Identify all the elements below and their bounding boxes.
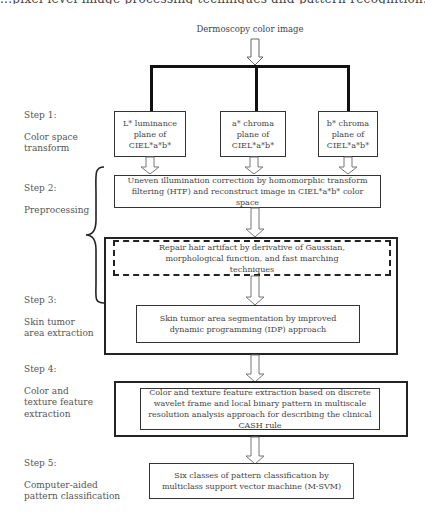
arrow-down-icon bbox=[246, 208, 264, 238]
step-5-label: Step 5: Computer-aided pattern classific… bbox=[24, 458, 124, 503]
step-name: Computer-aided pattern classification bbox=[24, 480, 124, 503]
step-number: Step 1: bbox=[24, 110, 84, 122]
arrow-down-icon bbox=[246, 437, 264, 465]
arrow-down-icon bbox=[247, 39, 263, 67]
branch-middle bbox=[255, 65, 258, 111]
classification-text: Six classes of pattern classification by… bbox=[157, 470, 347, 492]
step-number: Step 5: bbox=[24, 458, 124, 470]
classification-box: Six classes of pattern classification by… bbox=[149, 463, 354, 499]
arrow-down-icon bbox=[245, 157, 263, 175]
segmentation-text: Skin tumor area segmentation by improved… bbox=[143, 313, 353, 335]
step-1-label: Step 1: Color space transform bbox=[24, 110, 84, 155]
step-name: Color and texture feature extraction bbox=[24, 386, 99, 421]
plane-line: L* luminance bbox=[123, 118, 177, 129]
hair-repair-text: Repair hair artifact by derivative of Ga… bbox=[152, 242, 352, 275]
branch-right bbox=[347, 65, 350, 111]
arrow-down-icon bbox=[246, 276, 264, 306]
hair-repair-box: Repair hair artifact by derivative of Ga… bbox=[113, 240, 391, 276]
plane-line: b* chroma bbox=[327, 118, 369, 129]
branch-left bbox=[150, 65, 153, 111]
plane-line: CIEL*a*b* bbox=[232, 140, 274, 151]
plane-line: a* chroma bbox=[232, 118, 274, 129]
plane-line: plane of bbox=[237, 129, 270, 140]
arrow-down-icon bbox=[246, 355, 264, 383]
plane-line: CIEL*a*b* bbox=[129, 140, 171, 151]
plane-box-b: b* chroma plane of CIEL*a*b* bbox=[318, 111, 378, 157]
arrow-down-icon bbox=[339, 157, 357, 175]
plane-box-a: a* chroma plane of CIEL*a*b* bbox=[220, 111, 286, 157]
plane-line: plane of bbox=[332, 129, 365, 140]
branch-horizontal bbox=[150, 65, 350, 68]
step-name: Preprocessing bbox=[24, 205, 89, 217]
feature-extraction-text: Color and texture feature extraction bas… bbox=[145, 387, 375, 431]
cropped-caption-line: ...pixel-level image processing techniqu… bbox=[0, 0, 425, 4]
step-4-label: Step 4: Color and texture feature extrac… bbox=[24, 364, 99, 420]
feature-extraction-box: Color and texture feature extraction bas… bbox=[140, 388, 380, 430]
step-2-label: Step 1: Step 2: Preprocessing bbox=[24, 183, 89, 216]
arrow-down-icon bbox=[141, 157, 159, 175]
curly-brace-icon bbox=[84, 165, 106, 305]
plane-box-l: L* luminance plane of CIEL*a*b* bbox=[114, 111, 186, 157]
step-number: Step 4: bbox=[24, 364, 99, 376]
plane-line: plane of bbox=[134, 129, 167, 140]
preprocess-box: Uneven illumination correction by homomo… bbox=[114, 175, 381, 208]
plane-line: CIEL*a*b* bbox=[327, 140, 369, 151]
segmentation-box: Skin tumor area segmentation by improved… bbox=[136, 305, 360, 343]
step-name: Color space transform bbox=[24, 132, 84, 155]
step-name: Skin tumor area extraction bbox=[24, 317, 94, 340]
input-label: Dermoscopy color image bbox=[190, 24, 310, 34]
step-number: Step 2: bbox=[24, 183, 89, 195]
